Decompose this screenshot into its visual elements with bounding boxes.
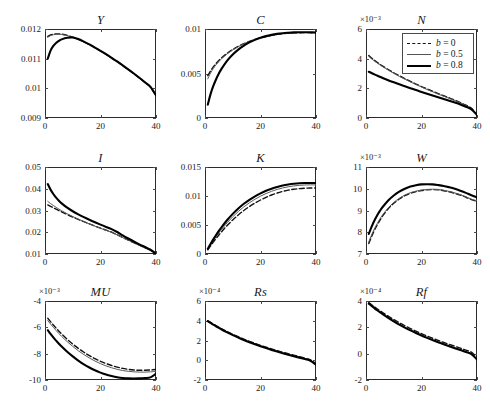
y-tick-label: 10 xyxy=(324,184,362,194)
x-tick-mark-top xyxy=(316,301,317,304)
y-tick-label: 0.01 xyxy=(163,191,201,201)
x-tick-mark-top xyxy=(156,29,157,32)
y-tick-mark xyxy=(205,380,208,381)
series-line-b-0.8 xyxy=(48,330,156,378)
y-tick-label: 4 xyxy=(163,316,201,326)
legend-item[interactable]: b = 0.8 xyxy=(407,59,468,70)
y-tick-label: 0.04 xyxy=(3,184,41,194)
panel-title: Rf xyxy=(366,285,477,300)
legend-item[interactable]: b = 0 xyxy=(407,37,468,48)
x-tick-mark xyxy=(316,377,317,380)
x-tick-mark xyxy=(316,115,317,118)
y-tick-mark-right xyxy=(313,380,316,381)
legend-label: b = 0.8 xyxy=(436,60,463,70)
panel-title: Rs xyxy=(205,285,316,300)
series-line-b-0.8 xyxy=(369,72,477,115)
y-tick-mark xyxy=(45,118,48,119)
x-tick-label: 40 xyxy=(152,121,161,131)
series-line-b-0.8 xyxy=(208,321,316,365)
y-tick-label: 0 xyxy=(324,349,362,359)
y-tick-mark-right xyxy=(313,118,316,119)
legend-line-swatch xyxy=(407,39,431,46)
y-tick-label: 0.005 xyxy=(163,69,201,79)
y-tick-label: 0.03 xyxy=(3,206,41,216)
x-tick-label: 20 xyxy=(417,121,426,131)
panel-rf: Rf×10⁻⁴-202402040 xyxy=(366,301,477,380)
series-line-b-0.8 xyxy=(208,32,316,104)
series-line-b-0 xyxy=(48,318,156,370)
x-tick-label: 0 xyxy=(203,383,208,393)
panel-i: I0.010.020.030.040.0502040 xyxy=(45,167,156,254)
series-line-b-0.8 xyxy=(369,184,477,234)
panel-n: N×10⁻³024602040b = 0b = 0.5b = 0.8 xyxy=(366,29,477,118)
x-tick-label: 40 xyxy=(312,383,321,393)
legend-label: b = 0.5 xyxy=(436,49,463,59)
x-tick-mark-top xyxy=(477,301,478,304)
series-line-b-0.8 xyxy=(48,184,156,254)
y-tick-label: -4 xyxy=(3,296,41,306)
x-tick-label: 0 xyxy=(43,121,48,131)
plot-curves xyxy=(45,29,156,118)
y-tick-mark-right xyxy=(313,254,316,255)
axis-exponent-label: ×10⁻⁴ xyxy=(199,286,220,296)
x-tick-label: 20 xyxy=(96,121,105,131)
x-tick-mark-top xyxy=(156,301,157,304)
y-tick-label: 6 xyxy=(163,296,201,306)
y-tick-label: 0 xyxy=(163,249,201,259)
y-tick-label: 2 xyxy=(324,83,362,93)
y-tick-label: 0.015 xyxy=(163,162,201,172)
series-line-b-0.5 xyxy=(48,201,156,253)
y-tick-label: -2 xyxy=(163,375,201,385)
panel-title: C xyxy=(205,13,316,28)
panel-y: Y0.0090.010.0110.01202040 xyxy=(45,29,156,118)
x-tick-label: 20 xyxy=(256,383,265,393)
y-tick-label: 9 xyxy=(324,206,362,216)
series-line-b-0.8 xyxy=(208,183,316,249)
legend-item[interactable]: b = 0.5 xyxy=(407,48,468,59)
y-tick-label: 4 xyxy=(324,296,362,306)
x-tick-mark-top xyxy=(477,29,478,32)
panel-w: W×10⁻³789101102040 xyxy=(366,167,477,254)
panel-k: K00.0050.010.01502040 xyxy=(205,167,316,254)
plot-curves xyxy=(45,167,156,254)
x-tick-label: 40 xyxy=(473,121,482,131)
legend-label: b = 0 xyxy=(436,38,456,48)
y-tick-mark xyxy=(205,254,208,255)
plot-curves xyxy=(366,301,477,380)
y-tick-label: 8 xyxy=(324,227,362,237)
y-tick-label: 0.01 xyxy=(3,83,41,93)
x-tick-label: 20 xyxy=(96,257,105,267)
series-line-b-0.5 xyxy=(208,185,316,250)
x-tick-label: 0 xyxy=(364,121,369,131)
x-tick-label: 20 xyxy=(256,121,265,131)
series-line-b-0 xyxy=(208,188,316,250)
series-line-b-0.5 xyxy=(48,34,156,95)
x-tick-label: 0 xyxy=(364,383,369,393)
y-tick-mark-right xyxy=(474,380,477,381)
y-tick-label: 0.05 xyxy=(3,162,41,172)
x-tick-mark xyxy=(477,115,478,118)
x-tick-label: 40 xyxy=(152,257,161,267)
x-tick-label: 0 xyxy=(43,257,48,267)
plot-curves xyxy=(45,301,156,380)
legend: b = 0b = 0.5b = 0.8 xyxy=(402,33,474,74)
panel-title: I xyxy=(45,151,156,166)
y-tick-label: 0.02 xyxy=(3,227,41,237)
plot-curves xyxy=(205,29,316,118)
y-tick-mark-right xyxy=(153,380,156,381)
y-tick-label: 0 xyxy=(163,113,201,123)
y-tick-mark-right xyxy=(153,118,156,119)
y-tick-mark-right xyxy=(474,254,477,255)
y-tick-label: -10 xyxy=(3,375,41,385)
panel-title: W xyxy=(366,151,477,166)
y-tick-mark xyxy=(45,254,48,255)
x-tick-label: 40 xyxy=(473,383,482,393)
series-line-b-0 xyxy=(48,34,156,96)
x-tick-label: 20 xyxy=(417,257,426,267)
y-tick-label: 11 xyxy=(324,162,362,172)
y-tick-label: 6 xyxy=(324,24,362,34)
x-tick-mark xyxy=(156,115,157,118)
x-tick-mark-top xyxy=(316,29,317,32)
axis-exponent-label: ×10⁻³ xyxy=(39,286,60,296)
x-tick-mark-top xyxy=(316,167,317,170)
